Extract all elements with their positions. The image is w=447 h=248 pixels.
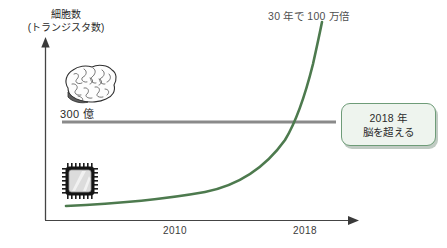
crossover-callout: 2018 年 脳を超える (341, 103, 436, 146)
x-tick-2018: 2018 (285, 225, 325, 236)
callout-line-2: 脳を超える (363, 126, 415, 138)
cpu-chip-icon (62, 163, 98, 199)
threshold-label: 300 億 (60, 105, 94, 121)
x-tick-2010: 2010 (155, 225, 195, 236)
y-axis-title: 細胞数 (トランジスタ数) (14, 8, 118, 34)
y-axis (41, 37, 49, 220)
growth-curve (66, 22, 322, 206)
growth-rate-annotation: 30 年で 100 万倍 (268, 8, 350, 23)
x-axis (45, 216, 359, 225)
brain-icon (66, 65, 116, 102)
chart-canvas: 細胞数 (トランジスタ数) 300 億 30 年で 100 万倍 2010 20… (0, 0, 447, 248)
y-axis-title-line2: (トランジスタ数) (14, 21, 118, 34)
callout-line-1: 2018 年 (369, 112, 407, 124)
y-axis-title-line1: 細胞数 (14, 8, 118, 21)
